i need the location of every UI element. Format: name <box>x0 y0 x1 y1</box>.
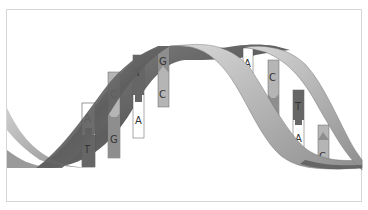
base-label-C: C <box>269 72 276 83</box>
base-label-G: G <box>110 134 118 145</box>
strand-front-light <box>170 44 362 169</box>
base-label-G: G <box>159 56 167 67</box>
dna-helix-illustration: A T C G T A G C A C T A <box>0 0 368 210</box>
base-label-A: A <box>135 115 142 126</box>
base-label-T: T <box>294 101 302 112</box>
base-label-C: C <box>159 89 166 100</box>
